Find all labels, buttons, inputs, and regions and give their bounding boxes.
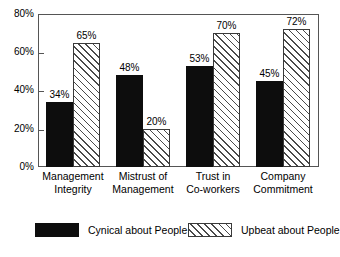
bar-value-upbeat-mistrust-of-management: 20% [135,117,178,127]
hatch-pattern [74,44,99,166]
bar-cynical-trust-in-co-workers [186,66,213,167]
bars-layer: 34% 65% 48% 20% 53% 70% 45% 72% [38,14,319,167]
bar-upbeat-company-commitment [283,29,310,167]
hatch-pattern [189,224,231,236]
hatch-pattern [284,30,309,166]
bar-value-upbeat-company-commitment: 72% [275,17,318,27]
y-tick-label-20: 20% [0,124,34,134]
x-axis-category-labels: Management Integrity Mistrust of Managem… [38,170,319,204]
bar-value-cynical-mistrust-of-management: 48% [108,63,151,73]
bar-cynical-management-integrity [46,102,73,167]
y-tick-label-0: 0% [0,162,34,172]
y-tick-label-40: 40% [0,85,34,95]
category-label-company-commitment: Company Commitment [241,170,325,195]
hatch-pattern [144,130,169,166]
bar-upbeat-management-integrity [73,43,100,167]
legend-label-upbeat: Upbeat about People [241,224,340,236]
bar-upbeat-mistrust-of-management [143,129,170,167]
bar-value-upbeat-management-integrity: 65% [65,31,108,41]
y-tick-label-80: 80% [0,9,34,19]
legend-entry-upbeat: Upbeat about People [188,221,340,239]
legend-label-cynical: Cynical about People [88,224,187,236]
bar-cynical-company-commitment [256,81,283,167]
bar-value-upbeat-trust-in-co-workers: 70% [205,21,248,31]
bar-upbeat-trust-in-co-workers [213,33,240,167]
y-axis: 80% 60% 40% 20% 0% [0,0,34,257]
hatch-pattern [214,34,239,166]
legend-swatch-solid-icon [35,223,79,237]
legend-entry-cynical: Cynical about People [35,221,187,239]
chart-legend: Cynical about People Upbeat about People [18,221,318,241]
y-tick-label-60: 60% [0,47,34,57]
category-label-line1: Company [241,170,325,183]
category-label-line2: Commitment [241,183,325,196]
legend-swatch-hatched-icon [188,223,232,237]
